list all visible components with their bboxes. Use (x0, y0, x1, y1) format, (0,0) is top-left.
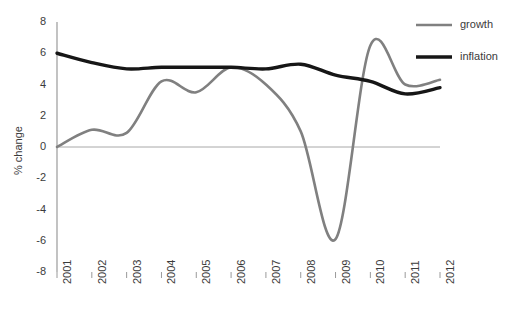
x-tick-label: 2001 (62, 260, 73, 284)
y-tick-label: -2 (20, 172, 46, 183)
y-tick-label: -8 (20, 266, 46, 277)
x-tick-label: 2009 (341, 260, 352, 284)
x-tick-label: 2002 (97, 260, 108, 284)
y-tick-label: 0 (20, 141, 46, 152)
x-tick-label: 2008 (306, 260, 317, 284)
x-tick-label: 2003 (132, 260, 143, 284)
chart-container: % change 86420-2-4-6-8 20012002200320042… (0, 0, 507, 320)
y-tick-label: -6 (20, 235, 46, 246)
x-tick-label: 2010 (375, 260, 386, 284)
x-tick-label: 2012 (445, 260, 456, 284)
legend-label-growth: growth (460, 19, 493, 30)
x-tick-label: 2011 (410, 260, 421, 284)
y-tick-label: 6 (20, 47, 46, 58)
series-line-inflation (57, 53, 440, 94)
line-chart-plot (0, 0, 507, 320)
x-tick-label: 2006 (236, 260, 247, 284)
x-tick-label: 2004 (166, 260, 177, 284)
y-tick-label: 4 (20, 79, 46, 90)
y-tick-label: -4 (20, 204, 46, 215)
y-tick-label: 8 (20, 16, 46, 27)
x-tick-label: 2005 (201, 260, 212, 284)
x-tick-label: 2007 (271, 260, 282, 284)
legend-label-inflation: inflation (460, 51, 498, 62)
y-tick-label: 2 (20, 110, 46, 121)
